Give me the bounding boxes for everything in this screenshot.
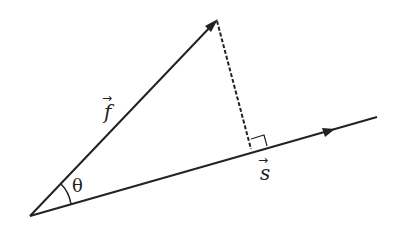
angle-arc-icon: [61, 184, 71, 204]
vector-f-label: f: [104, 102, 111, 122]
perpendicular-dashed-line: [217, 21, 251, 149]
right-angle-marker-icon: [251, 135, 267, 146]
vector-projection-diagram: → f θ → s: [0, 0, 398, 234]
angle-theta-label: θ: [72, 177, 83, 195]
vector-f-line: [30, 23, 214, 216]
vector-s-label: s: [260, 163, 270, 183]
vector-s-arrowhead-icon: [322, 128, 335, 137]
diagram-drawing: [0, 0, 398, 234]
